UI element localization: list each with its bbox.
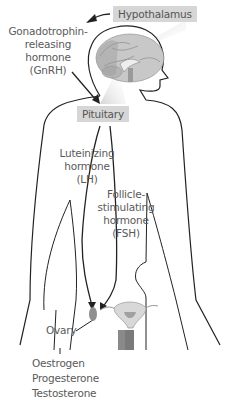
gnrh-line-4: (GnRH) [8, 64, 88, 77]
lh-line-3: (LH) [58, 173, 116, 186]
hormone-testosterone: Testosterone [32, 386, 99, 401]
body-left-outline [20, 96, 100, 345]
pituitary-label: Pituitary [77, 106, 129, 122]
gnrh-line-2: releasing [8, 38, 88, 51]
hormone-oestrogen: Oestrogen [32, 356, 99, 371]
fsh-line-2: stimulating [96, 201, 156, 214]
hormone-progesterone: Progesterone [32, 371, 99, 386]
gnrh-line-1: Gonadotrophin- [8, 25, 88, 38]
ovary-hormones-list: Oestrogen Progesterone Testosterone [32, 356, 99, 401]
lh-label: Luteinizing hormone (LH) [58, 147, 116, 186]
ovary-label: Ovary [46, 324, 76, 337]
fsh-label: Follicle- stimulating hormone (FSH) [96, 188, 156, 240]
fsh-line-3: hormone [96, 214, 156, 227]
lh-line-2: hormone [58, 160, 116, 173]
fsh-line-4: (FSH) [96, 227, 156, 240]
reproductive-organs-illustration [89, 302, 158, 350]
fsh-line-1: Follicle- [96, 188, 156, 201]
gnrh-label: Gonadotrophin- releasing hormone (GnRH) [8, 25, 88, 77]
hypothalamus-label: Hypothalamus [113, 6, 197, 22]
hormone-axis-diagram: Hypothalamus Gonadotrophin- releasing ho… [0, 0, 228, 409]
gnrh-line-3: hormone [8, 51, 88, 64]
brain-illustration [96, 34, 164, 82]
lh-line-1: Luteinizing [58, 147, 116, 160]
arrowhead-gnrh [86, 14, 97, 23]
arrowhead-pituitary [92, 94, 100, 104]
